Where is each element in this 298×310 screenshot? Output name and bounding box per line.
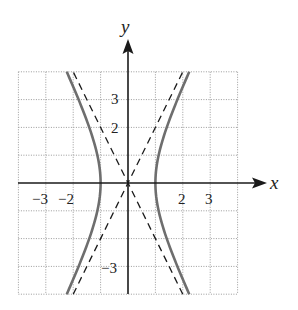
x-axis-label: x — [269, 172, 279, 193]
y-tick-label: 3 — [111, 91, 119, 107]
y-tick-label: −3 — [101, 260, 117, 276]
y-axis-label: y — [119, 16, 130, 37]
axes — [18, 39, 267, 294]
x-tick-label: 3 — [205, 191, 213, 207]
y-tick-label: 2 — [111, 120, 119, 136]
x-tick-label: −3 — [32, 191, 48, 207]
x-tick-label: 2 — [178, 191, 186, 207]
hyperbola-graph: y x −3 −2 2 3 3 2 −3 — [0, 0, 298, 310]
x-tick-label: −2 — [58, 191, 74, 207]
